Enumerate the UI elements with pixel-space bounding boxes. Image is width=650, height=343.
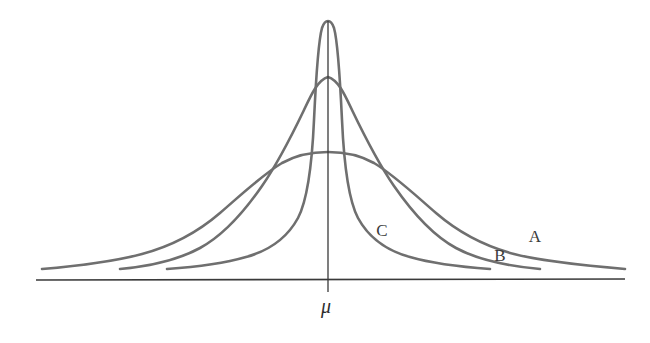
curve-a-path xyxy=(42,152,625,269)
normal-curves-figure: C B A μ xyxy=(0,0,650,343)
horizontal-axis-line xyxy=(36,279,625,280)
curve-label-b: B xyxy=(494,246,506,265)
figure-canvas: C B A μ xyxy=(0,0,650,343)
curve-label-a: A xyxy=(529,227,542,246)
curve-label-c: C xyxy=(376,221,388,240)
mu-axis-label: μ xyxy=(320,295,331,318)
